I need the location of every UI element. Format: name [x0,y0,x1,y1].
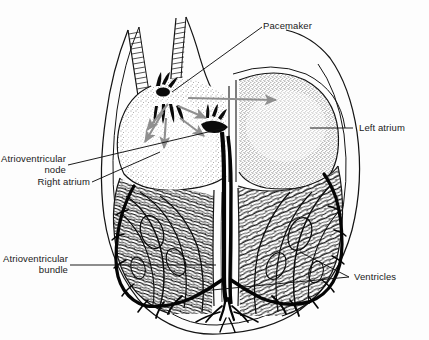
label-av-bundle-line2: bundle [0,264,68,276]
label-av-node-line1: Atrioventricular [0,153,66,165]
label-av-bundle-line1: Atrioventricular [0,253,68,265]
label-pacemaker: Pacemaker [263,20,312,32]
bundle-of-his [222,132,231,304]
heart-conduction-diagram: Pacemaker Left atrium Atrioventricular n… [0,0,429,340]
label-right-atrium: Right atrium [0,176,90,188]
label-ventricles: Ventricles [354,271,396,283]
right-atrium-chamber [117,78,226,190]
label-left-atrium: Left atrium [359,122,405,134]
label-av-node-line2: node [0,164,66,176]
